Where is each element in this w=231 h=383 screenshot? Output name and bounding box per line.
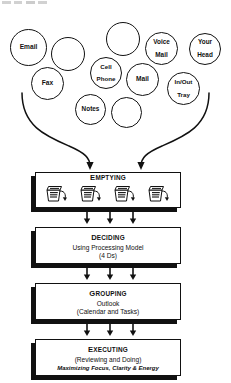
stage-title-grouping: GROUPING	[89, 289, 126, 298]
emptying-icon-row	[36, 184, 180, 208]
input-circle-label: Your Head	[195, 39, 215, 59]
input-circle-mail[interactable]: Mail	[126, 63, 159, 96]
stage-subtitle-line: Using Processing Model	[72, 244, 143, 251]
stage-tagline: Maximizing Focus, Clarity & Energy	[57, 365, 159, 371]
input-circle-cell-phone[interactable]: Cell Phone	[90, 57, 122, 89]
input-circle-your-head[interactable]: Your Head	[189, 33, 221, 65]
stage-title-emptying: EMPTYING	[90, 173, 126, 182]
cropped-header-artifact	[2, 1, 54, 8]
input-circle-label: Mail	[135, 76, 150, 83]
input-circle-notes[interactable]: Notes	[75, 94, 106, 125]
stage-subtitle-line: Outlook	[97, 300, 120, 307]
stage-box-emptying[interactable]: EMPTYING	[35, 172, 181, 208]
in-tray-icon	[147, 184, 171, 208]
input-circle-blank-3[interactable]	[111, 97, 142, 128]
stage-subtitle-line: (Calendar and Tasks)	[77, 308, 140, 315]
input-circle-label: Voice Mail	[151, 39, 172, 59]
input-circle-blank-1[interactable]	[51, 37, 85, 71]
input-circle-label: Cell Phone	[95, 64, 118, 83]
input-circle-in-out-tray[interactable]: In/Out Tray	[167, 72, 200, 105]
input-circle-voice-mail[interactable]: Voice Mail	[145, 32, 178, 65]
connector-arrows-deciding-grouping	[83, 267, 137, 281]
stage-subtitle-line: (4 Ds)	[99, 252, 117, 259]
in-tray-icon	[79, 184, 103, 208]
stage-box-deciding[interactable]: DECIDING Using Processing Model (4 Ds)	[35, 227, 181, 264]
stage-box-executing[interactable]: EXECUTING (Reviewing and Doing) Maximizi…	[35, 339, 181, 376]
input-circle-email[interactable]: Email	[10, 29, 47, 66]
stage-subtitle-line: (Reviewing and Doing)	[75, 356, 142, 363]
stage-title-deciding: DECIDING	[91, 233, 125, 242]
stage-box-grouping[interactable]: GROUPING Outlook (Calendar and Tasks)	[35, 283, 181, 320]
in-tray-icon	[113, 184, 137, 208]
input-circle-fax[interactable]: Fax	[31, 67, 64, 100]
stage-title-executing: EXECUTING	[88, 345, 128, 354]
input-circle-blank-2[interactable]	[106, 22, 140, 56]
input-circle-label: Fax	[41, 80, 54, 87]
diagram-canvas: Email Voice Mail Your Head Fax Cell Phon…	[0, 0, 231, 383]
connector-arrows-grouping-executing	[83, 323, 137, 337]
in-tray-icon	[45, 184, 69, 208]
connector-arrows-emptying-deciding	[83, 211, 137, 225]
input-circle-label: In/Out Tray	[173, 79, 195, 98]
input-circle-label: Notes	[81, 106, 101, 113]
input-circle-label: Email	[19, 44, 39, 51]
